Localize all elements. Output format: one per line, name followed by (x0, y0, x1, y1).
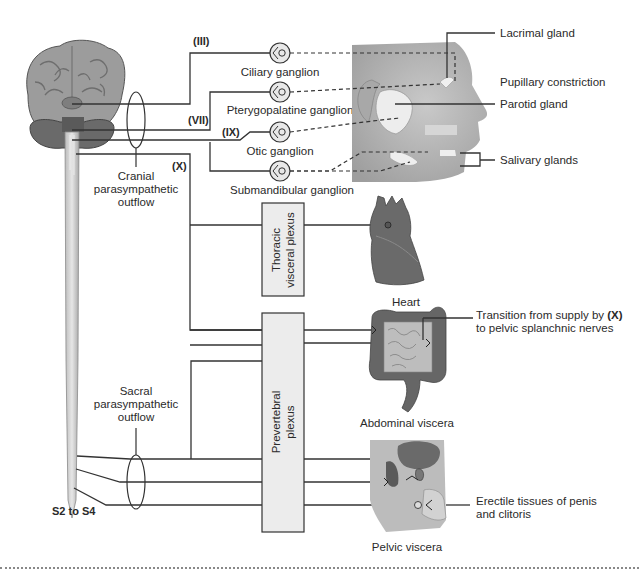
nerve-label-iii: (III) (193, 35, 210, 47)
ganglion-icon (270, 43, 290, 63)
svg-text:outflow: outflow (118, 196, 155, 208)
svg-text:to pelvic splanchnic nerves: to pelvic splanchnic nerves (476, 322, 614, 334)
abdominal-viscera-illustration (369, 307, 446, 412)
face-illustration (352, 42, 487, 182)
label-transition: Transition from supply by (X) (476, 309, 623, 321)
prevertebral-plexus (262, 313, 304, 532)
ganglion-submandibular: Submandibular ganglion (230, 161, 354, 196)
svg-text:parasympathetic: parasympathetic (94, 398, 179, 410)
nerve-label-vii: (VII) (188, 114, 209, 126)
parasympathetic-diagram: (III) (VII) (IX) (X) Ciliary ganglion Pt… (0, 0, 639, 580)
svg-text:Pterygopalatine ganglion: Pterygopalatine ganglion (227, 104, 354, 116)
nerve-label-ix: (IX) (222, 126, 240, 138)
label-abdominal-viscera: Abdominal viscera (360, 417, 455, 429)
svg-text:Ciliary ganglion: Ciliary ganglion (241, 66, 320, 78)
label-cranial-outflow: Cranial (118, 170, 154, 182)
svg-text:outflow: outflow (118, 411, 155, 423)
label-pelvic-viscera: Pelvic viscera (372, 541, 443, 553)
svg-text:visceral plexus: visceral plexus (284, 212, 296, 288)
svg-text:Prevertebral: Prevertebral (270, 391, 282, 454)
label-lacrimal-gland: Lacrimal gland (500, 27, 575, 39)
figure-divider (0, 567, 639, 569)
ganglion-icon (270, 122, 290, 142)
svg-text:and clitoris: and clitoris (476, 508, 531, 520)
nerve-label-x: (X) (172, 160, 187, 172)
label-erectile-tissues: Erectile tissues of penis (476, 495, 597, 507)
svg-text:Otic ganglion: Otic ganglion (246, 145, 313, 157)
label-sacral-outflow: Sacral (120, 385, 153, 397)
svg-text:Submandibular ganglion: Submandibular ganglion (230, 184, 354, 196)
thoracic-visceral-plexus (262, 203, 304, 296)
label-parotid-gland: Parotid gland (500, 98, 568, 110)
sacral-nerve-lines (74, 361, 418, 505)
label-s2-to-s4: S2 to S4 (52, 505, 96, 517)
spinal-cord (65, 132, 79, 518)
ganglion-pterygopalatine: Pterygopalatine ganglion (227, 82, 354, 116)
label-heart: Heart (392, 296, 421, 308)
svg-text:parasympathetic: parasympathetic (94, 183, 179, 195)
label-pupillary-constriction: Pupillary constriction (500, 76, 605, 88)
heart-illustration (370, 196, 424, 285)
ganglion-otic: Otic ganglion (246, 122, 313, 157)
pelvic-viscera-illustration (370, 440, 446, 532)
svg-text:plexus: plexus (284, 405, 296, 438)
svg-text:Thoracic: Thoracic (270, 228, 282, 272)
ganglion-icon (270, 82, 290, 102)
ganglion-ciliary: Ciliary ganglion (241, 43, 320, 78)
ganglion-icon (270, 161, 290, 181)
label-salivary-glands: Salivary glands (500, 154, 578, 166)
